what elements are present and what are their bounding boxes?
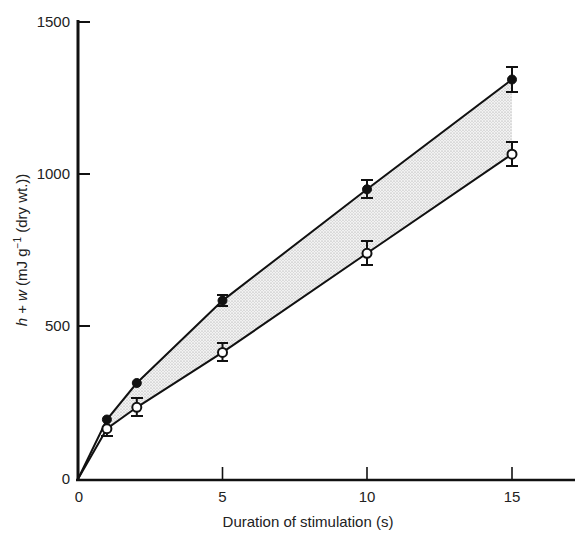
x-tick-label: 10	[359, 488, 376, 505]
shaded-region	[107, 80, 512, 429]
y-tick-label: 1500	[37, 13, 70, 30]
x-tick-label: 15	[504, 488, 521, 505]
y-tick-label: 1000	[37, 165, 70, 182]
x-tick-label: 5	[218, 488, 226, 505]
chart-canvas: 1500 1000 500 0 0 5 10 15 Duration of st…	[0, 0, 583, 544]
x-axis-title: Duration of stimulation (s)	[223, 513, 394, 530]
x-ticks	[223, 467, 513, 480]
filled-circle-marker	[132, 379, 141, 388]
open-circle-marker	[508, 150, 517, 159]
open-circle-marker	[132, 403, 141, 412]
series-line-open	[78, 154, 512, 479]
y-tick-label: 0	[62, 470, 70, 487]
open-circle-marker	[363, 249, 372, 258]
open-circle-marker	[102, 424, 111, 433]
y-tick-label: 500	[45, 317, 70, 334]
y-ticks	[78, 22, 90, 326]
filled-circle-marker	[218, 296, 227, 305]
open-circle-marker	[218, 348, 227, 357]
y-axis-title: h + w (mJ g−1 (dry wt.))	[12, 174, 30, 327]
filled-circle-marker	[508, 75, 517, 84]
filled-circle-marker	[102, 415, 111, 424]
x-tick-label: 0	[75, 488, 83, 505]
filled-circle-marker	[363, 185, 372, 194]
